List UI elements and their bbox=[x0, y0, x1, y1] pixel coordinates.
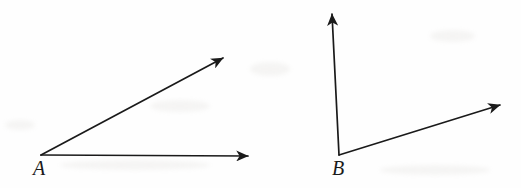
vertex-label-b: B bbox=[332, 158, 344, 178]
ray-a-upper bbox=[41, 58, 223, 155]
angle-b bbox=[332, 14, 500, 155]
angle-a bbox=[41, 58, 248, 156]
ray-b-slanted bbox=[339, 105, 500, 155]
geometry-figure: A B bbox=[0, 0, 521, 188]
angle-diagram-canvas bbox=[0, 0, 521, 188]
ray-b-vertical bbox=[332, 14, 339, 155]
vertex-label-a: A bbox=[33, 158, 45, 178]
ray-a-horizontal bbox=[41, 155, 248, 156]
